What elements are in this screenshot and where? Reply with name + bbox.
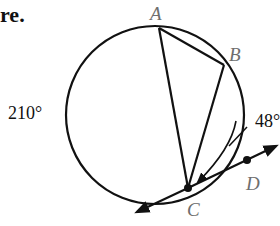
minor-arc-indicator (198, 121, 236, 182)
point-D (243, 156, 251, 164)
label-B: B (229, 44, 241, 66)
chord-BC (188, 65, 224, 188)
chord-AC (159, 28, 188, 188)
point-C (184, 184, 192, 192)
label-D: D (246, 173, 260, 195)
label-A: A (150, 3, 162, 25)
minor-arc-measure: 48° (255, 111, 280, 132)
tangent-line (188, 146, 276, 188)
label-C: C (187, 199, 200, 221)
circle (66, 26, 244, 204)
major-arc-measure: 210° (8, 103, 42, 124)
